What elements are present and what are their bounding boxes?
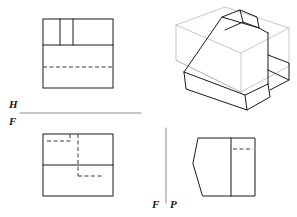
side-view (193, 138, 255, 196)
fold-lines (20, 113, 166, 203)
fold-label-f-profile: F (152, 199, 160, 210)
pictorial-view (176, 7, 289, 110)
fold-label-f: F (9, 116, 17, 127)
top-view-visible-lines (43, 19, 113, 88)
front-view-hidden-lines (47, 134, 104, 176)
technical-drawing-canvas (0, 0, 297, 217)
fold-label-h: H (9, 99, 18, 110)
pictorial-object-edges (184, 10, 289, 110)
side-view-visible-lines (193, 138, 255, 196)
front-view (43, 134, 113, 196)
drawing-sheet: H F F P (0, 0, 297, 217)
top-view (43, 19, 113, 88)
fold-label-p: P (170, 199, 177, 210)
